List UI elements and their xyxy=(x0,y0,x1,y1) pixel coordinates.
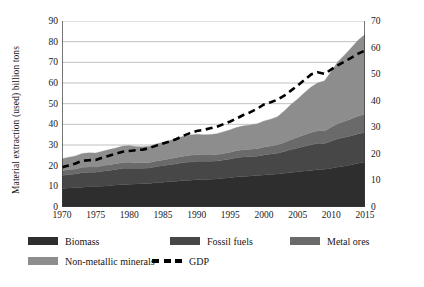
y-axis-left-tick-label: 70 xyxy=(24,57,58,67)
y-axis-left-tick-label: 30 xyxy=(24,140,58,150)
legend-label: Biomass xyxy=(65,236,99,247)
legend-label: GDP xyxy=(189,256,209,267)
x-axis-tick-label: 1990 xyxy=(187,210,206,220)
legend-item-metal-ores[interactable]: Metal ores xyxy=(290,232,370,250)
y-axis-right-tick-label: 50 xyxy=(371,69,397,79)
x-axis-tick-label: 1985 xyxy=(154,210,173,220)
legend-swatch-icon xyxy=(28,237,58,245)
y-axis-left-tick-label: 60 xyxy=(24,78,58,88)
x-axis-tick-label: 2015 xyxy=(356,210,375,220)
legend-label: Metal ores xyxy=(327,236,370,247)
chart-figure: Material extraction (used) billion tons … xyxy=(0,0,424,287)
y-axis-left-tick-label: 40 xyxy=(24,119,58,129)
x-axis-tick-label: 1980 xyxy=(120,210,139,220)
legend-item-gdp[interactable]: GDP xyxy=(152,252,209,270)
y-axis-right-tick-label: 60 xyxy=(371,43,397,53)
legend-dash-icon xyxy=(152,257,182,265)
x-axis-tick-label: 1975 xyxy=(86,210,105,220)
legend-item-fossil-fuels[interactable]: Fossil fuels xyxy=(170,232,253,250)
x-axis-tick-label: 2005 xyxy=(288,210,307,220)
x-axis-tick-label: 2000 xyxy=(255,210,274,220)
legend-swatch-icon xyxy=(28,257,58,265)
legend-swatch-icon xyxy=(170,237,200,245)
legend-label: Non-metallic minerals xyxy=(65,256,155,267)
legend-item-biomass[interactable]: Biomass xyxy=(28,232,99,250)
x-axis-tick-label: 1970 xyxy=(53,210,72,220)
y-axis-left-tick-label: 50 xyxy=(24,99,58,109)
legend-row: Non-metallic mineralsGDP xyxy=(0,252,424,270)
y-axis-right-tick-label: 70 xyxy=(371,16,397,26)
y-axis-left-tick-label: 80 xyxy=(24,37,58,47)
x-axis-tick-label: 2010 xyxy=(322,210,341,220)
legend-label: Fossil fuels xyxy=(207,236,253,247)
legend-swatch-icon xyxy=(290,237,320,245)
stacked-area-svg xyxy=(62,21,365,207)
plot-area xyxy=(62,21,365,207)
y-axis-right-tick-label: 10 xyxy=(371,175,397,185)
legend-row: BiomassFossil fuelsMetal ores xyxy=(0,232,424,250)
y-axis-left-tick-label: 10 xyxy=(24,181,58,191)
y-axis-left-tick-label: 20 xyxy=(24,161,58,171)
y-axis-right-tick-label: 20 xyxy=(371,149,397,159)
y-axis-right-tick-label: 30 xyxy=(371,122,397,132)
y-axis-right-tick-label: 40 xyxy=(371,96,397,106)
x-axis-tick-label: 1995 xyxy=(221,210,240,220)
y-axis-left-tick-label: 90 xyxy=(24,16,58,26)
x-axis-ticks: 1970197519801985199019952000200520102015 xyxy=(0,210,424,228)
legend-item-non-metallic-minerals[interactable]: Non-metallic minerals xyxy=(28,252,155,270)
chart-legend: BiomassFossil fuelsMetal oresNon-metalli… xyxy=(0,232,424,287)
y-axis-left-title: Material extraction (used) billion tons xyxy=(11,25,21,215)
